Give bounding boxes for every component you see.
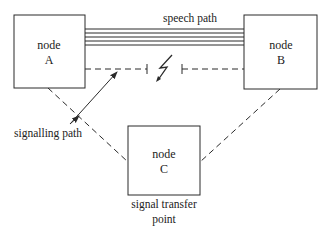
node-a: node A	[14, 15, 85, 88]
node-b: node B	[244, 15, 317, 89]
network-diagram: node A node B node C speech path signall…	[0, 0, 328, 235]
link-b-to-c	[200, 89, 280, 162]
broken-signalling-link	[85, 64, 244, 74]
signalling-path-label: signalling path	[14, 127, 82, 140]
node-a-id: A	[45, 53, 54, 67]
speech-path-label: speech path	[163, 12, 217, 25]
lightning-break-icon	[156, 55, 172, 82]
node-c-label: node	[152, 147, 175, 161]
stp-label-line1: signal transfer	[131, 198, 197, 211]
node-a-label: node	[37, 38, 60, 52]
node-b-label: node	[269, 38, 292, 52]
node-c: node C	[128, 126, 200, 195]
node-c-id: C	[160, 162, 168, 176]
link-a-to-c	[48, 88, 128, 162]
node-b-id: B	[277, 53, 285, 67]
speech-path-lines	[85, 29, 244, 45]
stp-label-line2: point	[152, 213, 176, 226]
